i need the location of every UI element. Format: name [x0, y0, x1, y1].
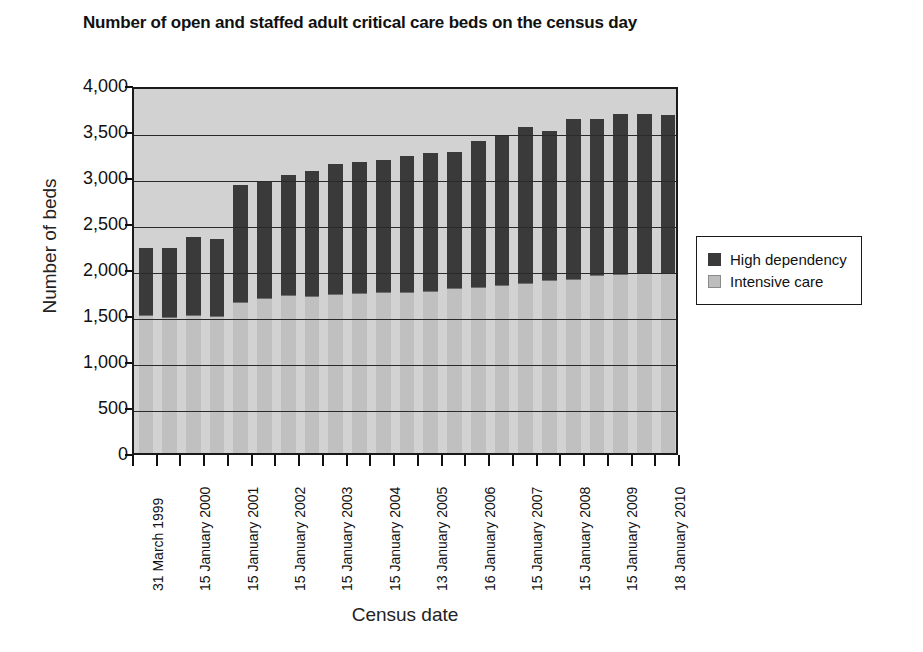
y-axis-tick-label: 2,500 — [50, 214, 128, 235]
bar-segment-intensive-care — [447, 288, 462, 453]
bar-segment-high-dependency — [139, 248, 154, 315]
x-axis-tick-mark — [203, 455, 205, 466]
bar-segment-intensive-care — [376, 292, 391, 453]
x-axis-tick-mark — [536, 455, 538, 466]
gridline — [134, 365, 676, 366]
bar-segment-intensive-care — [590, 275, 605, 453]
bar-segment-high-dependency — [495, 136, 510, 285]
bar-segment-high-dependency — [186, 237, 201, 315]
bar-segment-high-dependency — [566, 119, 581, 279]
legend-item-label: Intensive care — [730, 273, 823, 290]
x-axis-tick-label: 31 March 1999 — [150, 466, 166, 591]
x-axis-tick-mark — [132, 455, 134, 466]
x-axis-tick-label: 15 January 2009 — [624, 466, 640, 591]
bar-segment-intensive-care — [613, 274, 628, 453]
bar-segment-intensive-care — [542, 280, 557, 453]
x-axis-tick-mark — [322, 455, 324, 466]
y-axis-tick-label: 1,500 — [50, 306, 128, 327]
bar-segment-intensive-care — [233, 302, 248, 453]
chart-figure: Number of open and staffed adult critica… — [0, 0, 923, 652]
x-axis-tick-mark — [298, 455, 300, 466]
x-axis-tick-mark — [441, 455, 443, 466]
bar-stack — [471, 141, 486, 453]
x-axis-tick-label: 15 January 2008 — [577, 466, 593, 591]
bar-segment-intensive-care — [495, 285, 510, 453]
bar-segment-high-dependency — [400, 156, 415, 292]
x-axis-tick-mark — [274, 455, 276, 466]
x-axis-title: Census date — [132, 604, 678, 626]
y-axis-tick-label: 2,000 — [50, 260, 128, 281]
bar-segment-intensive-care — [400, 292, 415, 453]
x-axis-tick-label: 16 January 2006 — [482, 466, 498, 591]
bar-segment-high-dependency — [210, 239, 225, 316]
bar-segment-high-dependency — [423, 153, 438, 291]
x-axis-tick-mark — [631, 455, 633, 466]
bar-stack — [139, 248, 154, 453]
x-axis-tick-mark — [488, 455, 490, 466]
bar-segment-high-dependency — [305, 171, 320, 297]
y-axis-tick-label: 1,000 — [50, 352, 128, 373]
x-axis-tick-mark — [393, 455, 395, 466]
bar-stack — [661, 115, 676, 453]
light-square-swatch — [708, 275, 721, 288]
bar-segment-high-dependency — [542, 131, 557, 280]
x-axis-tick-mark — [559, 455, 561, 466]
x-axis-tick-mark — [678, 455, 680, 466]
bar-group — [134, 89, 676, 453]
x-axis-tick-mark — [607, 455, 609, 466]
bar-segment-intensive-care — [352, 293, 367, 453]
legend-item: High dependency — [708, 251, 847, 268]
y-axis-tick-label: 500 — [50, 398, 128, 419]
bar-stack — [518, 127, 533, 453]
x-axis-tick-labels: 31 March 199915 January 200015 January 2… — [132, 466, 678, 596]
bar-segment-high-dependency — [447, 152, 462, 288]
bar-stack — [162, 248, 177, 453]
bar-segment-intensive-care — [139, 315, 154, 453]
x-axis-tick-mark — [369, 455, 371, 466]
gridline — [134, 181, 676, 182]
bar-stack — [447, 152, 462, 453]
bar-segment-high-dependency — [637, 114, 652, 274]
bar-segment-high-dependency — [518, 127, 533, 283]
bar-segment-intensive-care — [423, 291, 438, 453]
legend-item-label: High dependency — [730, 251, 847, 268]
x-axis-tick-label: 15 January 2004 — [387, 466, 403, 591]
bar-stack — [423, 153, 438, 453]
bar-segment-intensive-care — [471, 287, 486, 453]
bar-stack — [542, 131, 557, 453]
bar-stack — [186, 237, 201, 453]
bar-stack — [590, 119, 605, 453]
bar-segment-high-dependency — [471, 141, 486, 287]
x-axis-tick-label: 15 January 2002 — [292, 466, 308, 591]
gridline — [134, 273, 676, 274]
x-axis-tick-mark — [583, 455, 585, 466]
y-axis-tick-label: 0 — [50, 444, 128, 465]
dark-square-swatch — [708, 253, 721, 266]
x-axis-tick-label: 18 January 2010 — [672, 466, 688, 591]
bar-stack — [376, 160, 391, 453]
chart-legend: High dependency Intensive care — [696, 236, 862, 305]
bar-segment-high-dependency — [281, 175, 296, 295]
gridline — [134, 227, 676, 228]
bar-stack — [352, 162, 367, 453]
bar-segment-intensive-care — [637, 273, 652, 453]
bar-segment-intensive-care — [186, 315, 201, 453]
x-axis-tick-label: 15 January 2000 — [197, 466, 213, 591]
x-axis-tick-mark — [464, 455, 466, 466]
y-axis-tick-label: 3,000 — [50, 168, 128, 189]
bar-segment-high-dependency — [233, 185, 248, 301]
x-axis-tick-label: 15 January 2003 — [339, 466, 355, 591]
x-axis-tick-mark — [227, 455, 229, 466]
bar-stack — [328, 164, 343, 453]
bar-stack — [400, 156, 415, 453]
bar-segment-high-dependency — [328, 164, 343, 294]
x-axis-tick-mark — [156, 455, 158, 466]
bar-stack — [637, 114, 652, 453]
bar-segment-intensive-care — [257, 298, 272, 453]
x-axis-tick-mark — [512, 455, 514, 466]
plot-area — [132, 87, 678, 455]
bar-segment-high-dependency — [257, 182, 272, 298]
bar-stack — [257, 182, 272, 453]
bar-segment-intensive-care — [518, 283, 533, 453]
bar-stack — [210, 239, 225, 453]
